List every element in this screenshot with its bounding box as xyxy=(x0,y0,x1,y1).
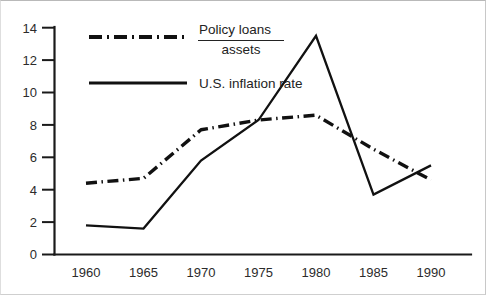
x-tick-label-1980: 1980 xyxy=(302,265,331,280)
x-tick-label-1970: 1970 xyxy=(187,265,216,280)
line-chart: 14 12 10 8 6 4 2 0 1960 1965 1970 1975 1… xyxy=(1,1,486,295)
axes xyxy=(55,27,472,255)
y-tick-label-12: 12 xyxy=(23,53,37,68)
series-line-policy-loans-assets xyxy=(86,115,431,183)
y-tick-label-10: 10 xyxy=(23,85,37,100)
x-tick-label-1975: 1975 xyxy=(244,265,273,280)
legend-label-policy-loans-denominator: assets xyxy=(221,42,260,57)
legend-label-inflation: U.S. inflation rate xyxy=(199,76,303,91)
y-tick-label-0: 0 xyxy=(30,247,37,262)
y-tick-label-2: 2 xyxy=(30,215,37,230)
x-tick-label-1985: 1985 xyxy=(359,265,388,280)
legend-entry-inflation: U.S. inflation rate xyxy=(89,76,303,91)
data-series-group xyxy=(86,36,431,229)
chart-figure: 14 12 10 8 6 4 2 0 1960 1965 1970 1975 1… xyxy=(0,0,486,295)
legend-entry-policy-loans: Policy loans assets xyxy=(89,22,284,57)
x-tick-labels: 1960 1965 1970 1975 1980 1985 1990 xyxy=(72,265,446,280)
y-tick-label-14: 14 xyxy=(23,21,37,36)
y-tick-label-6: 6 xyxy=(30,150,37,165)
series-line-us-inflation-rate xyxy=(86,36,431,229)
x-tick-label-1965: 1965 xyxy=(129,265,158,280)
y-tick-marks xyxy=(42,28,55,255)
x-tick-label-1960: 1960 xyxy=(72,265,101,280)
y-tick-label-4: 4 xyxy=(30,183,37,198)
chart-legend: Policy loans assets U.S. inflation rate xyxy=(89,22,303,91)
y-tick-label-8: 8 xyxy=(30,118,37,133)
x-tick-label-1990: 1990 xyxy=(417,265,446,280)
y-tick-labels: 14 12 10 8 6 4 2 0 xyxy=(23,21,37,263)
legend-label-policy-loans-numerator: Policy loans xyxy=(199,22,271,37)
